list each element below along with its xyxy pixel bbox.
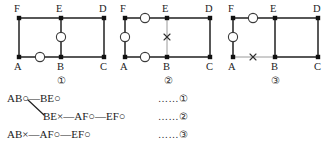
- graph-1-label-B: B: [57, 62, 64, 73]
- edge-marker-circle-A-B: [35, 52, 44, 61]
- derivation-area: AB○—BE○ ……① BE×—AF○—EF○ ……② AB×—AF○—EF○ …: [0, 88, 332, 151]
- graph-3-label-A: A: [228, 62, 236, 73]
- graph-3-label-B: B: [271, 62, 278, 73]
- vertex-F: [17, 16, 21, 20]
- graph-2[interactable]: F E D A B C ②: [112, 0, 222, 88]
- graph-1-label-F: F: [14, 4, 20, 15]
- derivation-row-2-text[interactable]: BE×—AF○—EF○: [43, 111, 125, 122]
- derivation-row-1-ref: ……①: [158, 94, 189, 104]
- graphs-area: F E D A B C ①: [0, 0, 332, 88]
- vertex-E: [165, 16, 169, 20]
- vertex-E: [273, 16, 277, 20]
- edge-marker-circle-A-F: [228, 32, 237, 41]
- graph-3-label-C: C: [314, 62, 321, 73]
- graph-1-label-D: D: [99, 4, 107, 15]
- graph-3-label-D: D: [313, 4, 321, 15]
- edge-marker-circle-F-E: [248, 13, 257, 22]
- graph-2-label-C: C: [206, 62, 213, 73]
- edge-marker-circle-A-F: [120, 32, 129, 41]
- vertex-C: [208, 55, 212, 59]
- vertex-F: [231, 16, 235, 20]
- edge-marker-circle-E-B: [56, 32, 65, 41]
- vertex-F: [123, 16, 127, 20]
- graph-2-label-B: B: [163, 62, 170, 73]
- derivation-row-2-ref: ……②: [158, 112, 189, 122]
- vertex-A: [17, 55, 21, 59]
- figure-root: F E D A B C ①: [0, 0, 332, 151]
- vertex-A: [123, 55, 127, 59]
- graph-3-caption: ③: [219, 76, 332, 86]
- graph-1-label-C: C: [100, 62, 107, 73]
- vertex-D: [208, 16, 212, 20]
- edge-marker-circle-F-E: [140, 13, 149, 22]
- vertex-B: [59, 55, 63, 59]
- vertex-C: [102, 55, 106, 59]
- graph-1-label-E: E: [56, 4, 62, 15]
- vertex-A: [231, 55, 235, 59]
- graph-2-label-D: D: [205, 4, 213, 15]
- graph-1-label-A: A: [14, 62, 22, 73]
- edge-marker-circle-A-B: [140, 52, 149, 61]
- graph-3-label-F: F: [228, 4, 234, 15]
- vertex-B: [165, 55, 169, 59]
- graph-1[interactable]: F E D A B C ①: [2, 0, 112, 88]
- derivation-row-3-text[interactable]: AB×—AF○—EF○: [7, 129, 91, 140]
- graph-3[interactable]: F E D A B C ③: [219, 0, 329, 88]
- graph-2-caption: ②: [112, 76, 224, 86]
- derivation-row-1-text[interactable]: AB○—BE○: [7, 93, 61, 104]
- vertex-D: [316, 16, 320, 20]
- graph-2-label-F: F: [120, 4, 126, 15]
- derivation-row-3-ref: ……③: [158, 130, 189, 140]
- graph-1-caption: ①: [2, 76, 120, 86]
- vertex-B: [273, 55, 277, 59]
- graph-3-label-E: E: [270, 4, 276, 15]
- vertex-C: [316, 55, 320, 59]
- graph-2-label-A: A: [120, 62, 128, 73]
- graph-2-label-E: E: [162, 4, 168, 15]
- vertex-D: [102, 16, 106, 20]
- vertex-E: [59, 16, 63, 20]
